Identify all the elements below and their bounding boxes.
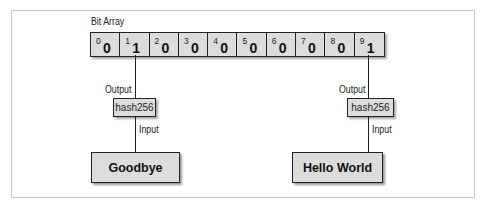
bit-index: 2 — [155, 36, 160, 46]
bit-value: 0 — [279, 40, 287, 56]
bit-cell-1: 11 — [120, 33, 149, 56]
goodbye-input-box: Goodbye — [91, 152, 180, 183]
bit-cell-0: 00 — [91, 33, 120, 56]
bit-cell-9: 91 — [355, 33, 384, 56]
left-input-connector — [135, 117, 136, 152]
left-output-label: Output — [105, 85, 131, 95]
bit-value: 0 — [162, 40, 170, 56]
left-hash-label: hash256 — [115, 102, 153, 113]
bit-value: 0 — [308, 40, 316, 56]
right-output-connector — [368, 55, 369, 98]
left-hash256-box: hash256 — [113, 98, 156, 117]
bit-index: 0 — [96, 36, 101, 46]
goodbye-text: Goodbye — [108, 161, 162, 175]
bit-cell-7: 70 — [296, 33, 325, 56]
bit-index: 4 — [213, 36, 218, 46]
right-output-label: Output — [339, 85, 365, 95]
hello-world-input-box: Hello World — [292, 152, 383, 183]
bit-index: 1 — [125, 36, 130, 46]
bit-cell-6: 60 — [267, 33, 296, 56]
bit-value: 0 — [103, 40, 111, 56]
bit-index: 6 — [272, 36, 277, 46]
bit-value: 0 — [249, 40, 257, 56]
bit-value: 0 — [191, 40, 199, 56]
bit-value: 1 — [132, 40, 140, 56]
bit-cell-5: 50 — [237, 33, 266, 56]
right-input-connector — [368, 117, 369, 152]
bit-value: 0 — [337, 40, 345, 56]
bit-index: 7 — [301, 36, 306, 46]
bit-cell-2: 20 — [150, 33, 179, 56]
bit-index: 5 — [242, 36, 247, 46]
bit-cell-8: 80 — [325, 33, 354, 56]
bit-index: 8 — [330, 36, 335, 46]
bit-index: 3 — [184, 36, 189, 46]
right-hash256-box: hash256 — [347, 98, 394, 117]
right-hash-label: hash256 — [351, 102, 389, 113]
right-input-label: Input — [372, 125, 392, 135]
bit-array: 00 11 20 30 40 50 60 70 80 91 — [90, 32, 385, 57]
bit-cell-3: 30 — [179, 33, 208, 56]
hello-world-text: Hello World — [303, 161, 372, 175]
bit-cell-4: 40 — [208, 33, 237, 56]
bit-array-title: Bit Array — [91, 17, 124, 27]
left-output-connector — [135, 55, 136, 98]
bit-value: 0 — [220, 40, 228, 56]
bit-index: 9 — [360, 36, 365, 46]
bit-value: 1 — [367, 40, 375, 56]
left-input-label: Input — [139, 125, 159, 135]
